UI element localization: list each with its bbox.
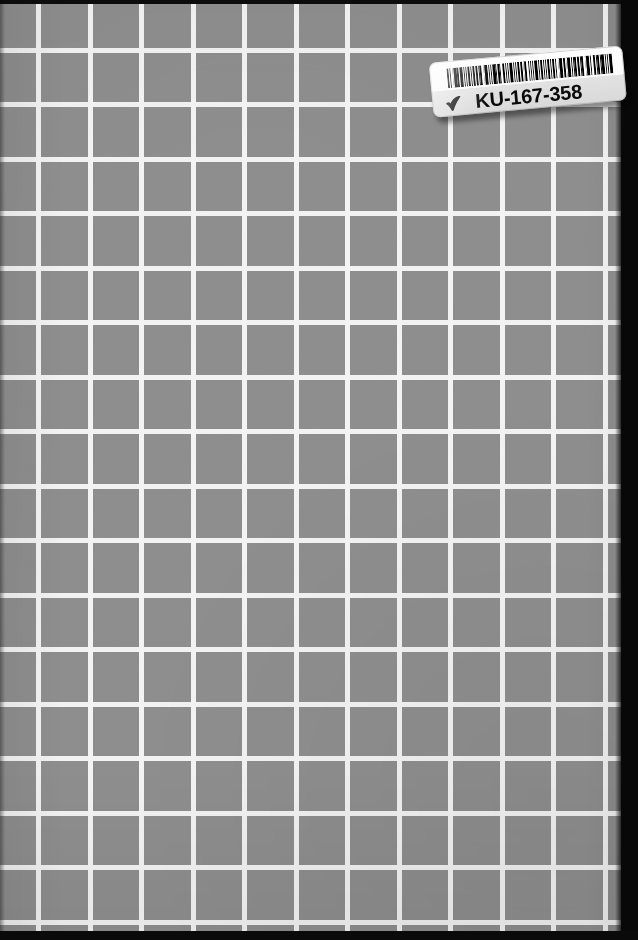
- scan-edge-top: [0, 0, 638, 4]
- grid-paper-background: [0, 0, 638, 940]
- scan-edge-bottom: [0, 931, 638, 940]
- check-mark-icon: [445, 95, 463, 111]
- scanned-cover-page: KU-167-358: [0, 0, 638, 940]
- scan-edge-left: [0, 0, 5, 940]
- scan-edge-right: [621, 0, 638, 940]
